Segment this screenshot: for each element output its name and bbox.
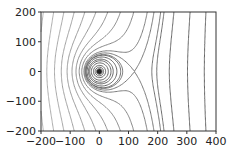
x-axis: −200−1000100200300400 [26,131,227,148]
contour-line [55,12,64,131]
x-tick-label: 300 [176,135,197,148]
y-tick-label: 200 [15,6,36,19]
contour-line [47,12,54,131]
contour-line [84,12,147,131]
contour-line [76,12,108,131]
x-tick-label: 200 [147,135,168,148]
x-tick-label: 0 [96,135,103,148]
contour-line [89,12,191,131]
contour-line [90,12,206,131]
y-axis: 2001000−100−200 [6,6,41,138]
y-tick-label: −200 [6,125,36,138]
x-tick-label: 100 [118,135,139,148]
y-tick-label: −100 [6,95,36,108]
contour-lines [41,12,206,131]
contour-line [82,12,134,131]
contour-chart: −200−1000100200300400 2001000−100−200 [0,0,235,154]
source-point [97,69,102,74]
x-tick-label: 400 [206,135,227,148]
y-tick-label: 100 [15,36,36,49]
y-tick-label: 0 [29,66,36,79]
x-tick-label: −100 [55,135,85,148]
